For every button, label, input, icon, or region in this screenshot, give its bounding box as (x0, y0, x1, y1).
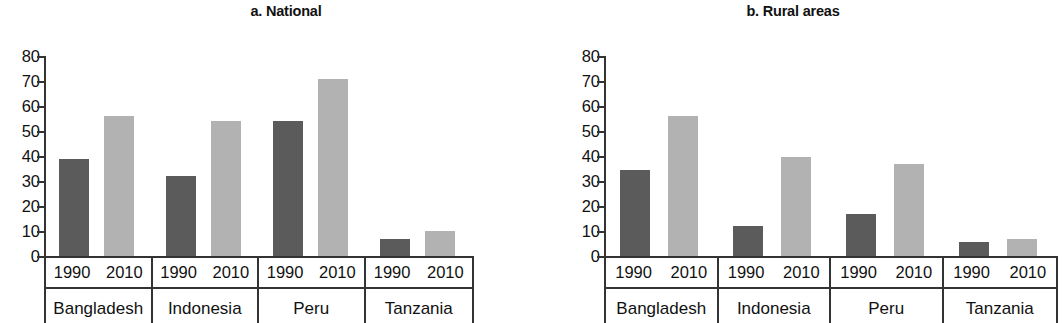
y-axis-line (604, 56, 606, 258)
y-tick-label: 80 (6, 48, 40, 65)
country-group-cell: 19902010Tanzania (944, 258, 1057, 323)
x-tick-label-year: 1990 (366, 258, 419, 287)
x-tick-label-country: Peru (259, 289, 364, 323)
country-group-cell: 19902010Peru (831, 258, 944, 323)
year-labels-row: 19902010 (46, 258, 151, 289)
bar (104, 116, 134, 256)
bar-chart-figure: a. National 80706050403020100 19902010Ba… (0, 0, 1064, 323)
y-tick-label: 30 (566, 173, 600, 190)
x-tick-label-year: 2010 (886, 258, 941, 287)
y-tick-label: 60 (6, 98, 40, 115)
bar (959, 242, 989, 256)
x-tick-label-year: 2010 (419, 258, 472, 287)
x-tick-label-year: 1990 (944, 258, 1000, 287)
country-group-cell: 19902010Bangladesh (606, 258, 719, 323)
year-labels-row: 19902010 (366, 258, 473, 289)
x-tick-label-year: 2010 (1000, 258, 1056, 287)
bar (59, 159, 89, 257)
bar (166, 176, 196, 256)
y-axis-tick (597, 156, 604, 158)
year-labels-row: 19902010 (606, 258, 717, 289)
y-axis-line (44, 56, 46, 258)
year-labels-row: 19902010 (259, 258, 364, 289)
x-tick-label-country: Bangladesh (46, 289, 151, 323)
x-tick-label-year: 2010 (661, 258, 716, 287)
panel-rural-areas: b. Rural areas 80706050403020100 1990201… (532, 0, 1064, 323)
bar (273, 121, 303, 256)
bar (318, 79, 348, 257)
y-axis-tick (597, 181, 604, 183)
panel-b-label-table: 19902010Bangladesh19902010Indonesia19902… (604, 258, 1058, 323)
bar (380, 239, 410, 257)
y-axis-tick (597, 56, 604, 58)
year-labels-row: 19902010 (831, 258, 942, 289)
y-tick-label: 20 (6, 198, 40, 215)
y-tick-label: 40 (566, 148, 600, 165)
y-tick-label: 50 (6, 123, 40, 140)
country-group-cell: 19902010Peru (259, 258, 366, 323)
y-axis-tick (597, 231, 604, 233)
x-axis-line (37, 256, 474, 258)
x-tick-label-year: 2010 (98, 258, 150, 287)
panel-a-y-axis-labels: 80706050403020100 (6, 0, 40, 323)
country-group-cell: 19902010Indonesia (719, 258, 832, 323)
year-labels-row: 19902010 (944, 258, 1057, 289)
bar (211, 121, 241, 256)
y-tick-label: 0 (566, 248, 600, 265)
y-tick-label: 70 (566, 73, 600, 90)
x-tick-label-year: 1990 (831, 258, 886, 287)
x-tick-label-year: 1990 (46, 258, 98, 287)
y-tick-label: 80 (566, 48, 600, 65)
x-tick-label-country: Peru (831, 289, 942, 323)
y-tick-label: 50 (566, 123, 600, 140)
country-group-cell: 19902010Indonesia (153, 258, 260, 323)
year-labels-row: 19902010 (153, 258, 258, 289)
bar (846, 214, 876, 257)
y-axis-tick (37, 106, 44, 108)
country-group-cell: 19902010Bangladesh (46, 258, 153, 323)
y-axis-tick (597, 81, 604, 83)
y-axis-tick (37, 181, 44, 183)
x-tick-label-country: Tanzania (366, 289, 473, 323)
y-tick-label: 30 (6, 173, 40, 190)
y-axis-tick (597, 131, 604, 133)
x-tick-label-country: Indonesia (719, 289, 830, 323)
y-tick-label: 60 (566, 98, 600, 115)
y-tick-label: 10 (566, 223, 600, 240)
y-axis-tick (37, 56, 44, 58)
x-axis-line (597, 256, 1058, 258)
y-axis-tick (37, 156, 44, 158)
x-tick-label-year: 1990 (259, 258, 311, 287)
x-tick-label-year: 2010 (205, 258, 257, 287)
panel-a-bars (46, 56, 474, 256)
bar (894, 164, 924, 257)
y-tick-label: 0 (6, 248, 40, 265)
country-group-cell: 19902010Tanzania (366, 258, 473, 323)
bar (781, 157, 811, 256)
y-axis-tick (37, 231, 44, 233)
panel-b-y-axis-labels: 80706050403020100 (566, 0, 600, 323)
x-tick-label-year: 1990 (153, 258, 205, 287)
y-axis-tick (37, 131, 44, 133)
x-tick-label-year: 2010 (311, 258, 363, 287)
panel-b-bars (606, 56, 1058, 256)
x-tick-label-year: 2010 (774, 258, 829, 287)
y-tick-label: 70 (6, 73, 40, 90)
x-tick-label-country: Indonesia (153, 289, 258, 323)
y-tick-label: 10 (6, 223, 40, 240)
panel-a-label-table: 19902010Bangladesh19902010Indonesia19902… (44, 258, 474, 323)
y-tick-label: 20 (566, 198, 600, 215)
panel-b-plot: 80706050403020100 19902010Bangladesh1990… (532, 0, 1064, 323)
bar (733, 226, 763, 256)
y-axis-tick (597, 106, 604, 108)
y-tick-label: 40 (6, 148, 40, 165)
y-axis-tick (37, 206, 44, 208)
bar (425, 231, 455, 256)
x-tick-label-year: 1990 (606, 258, 661, 287)
panel-a-plot: 80706050403020100 19902010Bangladesh1990… (0, 0, 532, 323)
bar (668, 116, 698, 256)
x-tick-label-year: 1990 (719, 258, 774, 287)
x-tick-label-country: Tanzania (944, 289, 1057, 323)
y-axis-tick (37, 81, 44, 83)
bar (1007, 239, 1037, 257)
